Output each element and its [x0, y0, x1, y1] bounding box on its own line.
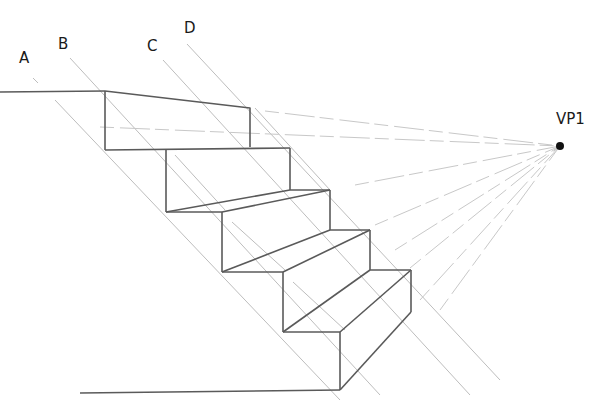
label-b: B: [58, 35, 68, 53]
step-4-tread-back: [283, 270, 370, 332]
top-ground-line: [0, 91, 105, 92]
diagonal-guides: [33, 44, 500, 400]
label-a: A: [19, 49, 29, 67]
perspective-stairs-diagram: A B C D VP1: [0, 0, 601, 412]
bottom-ground-line: [80, 390, 340, 393]
label-vp1: VP1: [556, 110, 585, 128]
diagram-drawing: [0, 0, 601, 412]
vp-line-2: [100, 127, 560, 146]
guide-line-c: [163, 60, 470, 395]
vanishing-point-dot: [556, 142, 564, 150]
step-3-tread-back: [222, 230, 330, 272]
guide-line-b: [70, 58, 380, 395]
vp-line-6: [410, 146, 560, 268]
vp-line-5: [395, 146, 560, 250]
vp-line-8: [440, 146, 560, 310]
vp-line-4: [375, 146, 560, 225]
step-1-bottom-edge: [105, 148, 290, 150]
label-c: C: [147, 37, 157, 55]
guide-line-a: [55, 100, 340, 400]
vp-line-1: [265, 111, 560, 146]
step-3-tread-edge: [283, 230, 370, 272]
guide-line-extra-2: [175, 155, 225, 210]
guide-line-a-top: [33, 78, 38, 83]
step-2-tread-back: [166, 190, 290, 212]
staircase: [105, 91, 411, 390]
step-2-tread-edge: [222, 190, 330, 212]
label-d: D: [184, 19, 196, 37]
